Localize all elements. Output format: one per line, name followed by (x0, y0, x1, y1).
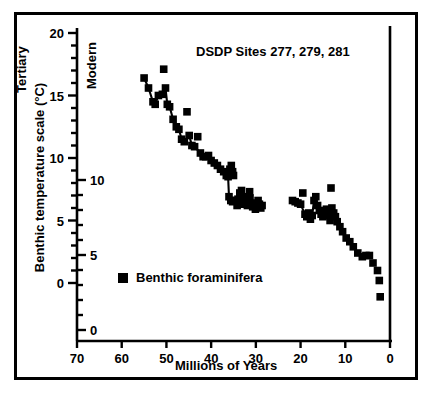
data-point-marker (140, 74, 148, 82)
data-point-marker (233, 202, 241, 210)
y-tick-label-upper: 0 (57, 276, 64, 291)
legend-marker-square-icon (118, 273, 128, 283)
x-tick-label: 50 (159, 351, 173, 366)
data-point-marker (194, 133, 202, 141)
data-point-marker (366, 252, 374, 260)
data-point-marker (230, 172, 238, 180)
era-label-right: Modern (84, 31, 99, 101)
data-point-marker (175, 126, 183, 134)
y-tick-label-upper: 10 (50, 151, 64, 166)
data-point-marker (183, 108, 191, 116)
data-point-marker (299, 189, 307, 197)
era-label-left: Tertiary (14, 31, 29, 109)
y-tick-label-upper: 15 (50, 89, 64, 104)
chart-title: DSDP Sites 277, 279, 281 (196, 44, 350, 59)
data-point-marker (376, 293, 384, 301)
x-tick-label: 60 (114, 351, 128, 366)
data-point-marker (151, 101, 159, 109)
chart-canvas: 706050403020100201510501050 (0, 0, 432, 394)
data-point-marker (376, 277, 384, 285)
data-point-marker (162, 84, 170, 92)
x-tick-label: 70 (70, 351, 84, 366)
data-point-marker (374, 267, 382, 275)
data-point-marker (308, 212, 316, 220)
legend-label: Benthic foraminifera (136, 270, 262, 285)
y-tick-label-upper: 5 (57, 214, 64, 229)
y-tick-label-lower: 5 (90, 248, 97, 263)
x-tick-label: 10 (338, 351, 352, 366)
data-point-marker (312, 193, 320, 201)
y-axis-title: Benthic temperature scale (°C) (32, 73, 47, 283)
data-point-marker (166, 103, 174, 111)
data-point-marker (169, 116, 177, 124)
data-point-marker (258, 202, 266, 210)
x-axis-title: Millions of Years (175, 358, 277, 373)
x-tick-label: 20 (293, 351, 307, 366)
legend: Benthic foraminifera (118, 270, 262, 285)
y-tick-label-lower: 0 (90, 323, 97, 338)
figure-root: 706050403020100201510501050 Tertiary Mod… (0, 0, 432, 394)
data-point-marker (185, 132, 193, 140)
data-point-marker (297, 200, 305, 208)
data-point-marker (369, 259, 377, 267)
data-point-marker (160, 65, 168, 73)
y-tick-label-lower: 10 (90, 173, 104, 188)
data-point-marker (246, 188, 254, 196)
data-point-marker (145, 84, 153, 92)
y-tick-label-upper: 20 (50, 26, 64, 41)
x-tick-label: 0 (386, 351, 393, 366)
data-point-marker (327, 184, 335, 192)
